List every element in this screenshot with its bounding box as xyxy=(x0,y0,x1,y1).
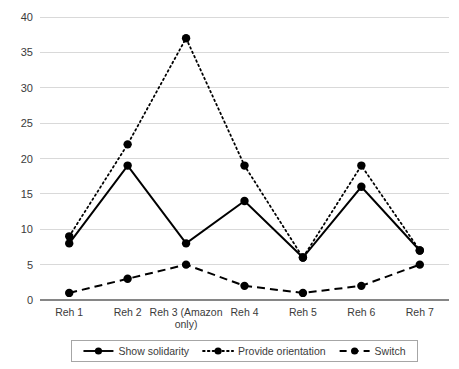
legend-marker-icon xyxy=(351,347,358,354)
legend-label: Switch xyxy=(375,345,406,357)
data-point-marker xyxy=(182,239,190,247)
x-axis-category-label: Reh 2 xyxy=(114,306,142,318)
x-axis-category-label: Reh 6 xyxy=(347,306,375,318)
line-chart: 0510152025303540 Reh 1Reh 2Reh 3 (Amazon… xyxy=(0,0,459,369)
y-axis-tick-label: 25 xyxy=(21,117,33,129)
data-point-marker xyxy=(357,161,365,169)
legend-label: Show solidarity xyxy=(118,345,189,357)
x-axis-category-label: Reh 7 xyxy=(406,306,434,318)
data-point-marker xyxy=(299,253,307,261)
y-axis-tick-label: 20 xyxy=(21,153,33,165)
legend-marker-icon xyxy=(214,347,221,354)
data-point-marker xyxy=(299,289,307,297)
x-axis-category-label: Reh 4 xyxy=(230,306,258,318)
data-point-marker xyxy=(240,197,248,205)
data-point-marker xyxy=(416,246,424,254)
y-axis-tick-label: 0 xyxy=(27,294,33,306)
data-point-marker xyxy=(123,275,131,283)
data-point-marker xyxy=(123,140,131,148)
x-axis-category-label: Reh 1 xyxy=(55,306,83,318)
chart-container: 0510152025303540 Reh 1Reh 2Reh 3 (Amazon… xyxy=(0,0,459,369)
data-point-marker xyxy=(240,282,248,290)
y-axis-tick-label: 30 xyxy=(21,82,33,94)
chart-legend: Show solidarityProvide orientationSwitch xyxy=(71,341,417,362)
data-point-marker xyxy=(357,282,365,290)
y-axis-tick-label: 5 xyxy=(27,259,33,271)
x-axis-category-label: Reh 5 xyxy=(289,306,317,318)
data-point-marker xyxy=(416,260,424,268)
x-axis-category-label: Reh 3 (Amazon xyxy=(150,306,223,318)
data-point-marker xyxy=(240,161,248,169)
data-point-marker xyxy=(65,289,73,297)
data-point-marker xyxy=(123,161,131,169)
data-point-marker xyxy=(182,34,190,42)
data-point-marker xyxy=(182,260,190,268)
legend-label: Provide orientation xyxy=(238,345,326,357)
data-point-marker xyxy=(357,183,365,191)
y-axis-tick-label: 10 xyxy=(21,223,33,235)
data-point-marker xyxy=(65,232,73,240)
y-axis-tick-label: 15 xyxy=(21,188,33,200)
legend-marker-icon xyxy=(95,347,102,354)
y-axis-tick-label: 40 xyxy=(21,11,33,23)
y-axis-tick-label: 35 xyxy=(21,46,33,58)
x-axis-category-label: only) xyxy=(175,318,198,330)
